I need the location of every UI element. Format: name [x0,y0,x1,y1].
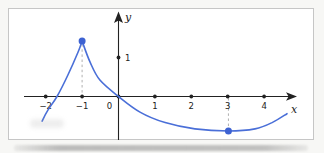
x-tick-label--1: −1 [76,101,89,111]
x-tick-dot-2 [189,95,193,99]
x-axis-label: x [291,103,298,116]
scan-smudge [30,119,64,128]
dashed-guides [82,45,228,127]
local-min-point [225,128,232,135]
x-tick-label-4: 4 [261,101,266,111]
x-tick-label-0: 0 [107,101,112,111]
figure: −2−101234 y x 1 [0,0,324,153]
x-tick-dot-4 [262,95,266,99]
tick-dots [44,56,266,99]
y-unit-label: 1 [125,53,130,63]
curve-right-branch [82,41,287,131]
x-tick-dot-1 [153,95,157,99]
curve [42,41,287,131]
x-tick-label-1: 1 [152,101,157,111]
y-unit-dot [117,56,121,60]
plot-svg: −2−101234 y x 1 [0,0,324,153]
scan-artifact [14,145,308,151]
local-max-point [79,38,86,45]
x-tick-dot--1 [80,95,84,99]
x-tick-label-3: 3 [225,101,230,111]
x-tick-label-2: 2 [189,101,194,111]
y-axis-label: y [124,11,132,24]
x-tick-dot-3 [226,95,230,99]
x-tick-dot--2 [44,95,48,99]
tick-labels: −2−101234 [39,101,266,111]
